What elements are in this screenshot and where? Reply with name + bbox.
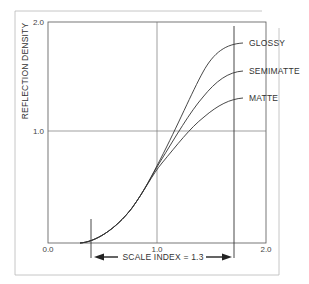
scale-index-annotation: SCALE INDEX = 1.3 [94, 252, 232, 262]
series-label-semimatte: SEMIMATTE [249, 66, 300, 76]
curve-glossy [80, 43, 243, 243]
plot-area [48, 22, 266, 243]
curves [80, 43, 243, 243]
series-label-matte: MATTE [249, 93, 278, 103]
scale-index-label: SCALE INDEX = 1.3 [122, 252, 203, 262]
y-tick-2: 2.0 [33, 18, 45, 27]
curve-matte [80, 98, 243, 243]
y-tick-1: 1.0 [33, 127, 45, 136]
x-tick-0: 0.0 [42, 245, 54, 254]
x-tick-2: 2.0 [260, 245, 272, 254]
right-arrow-icon [222, 254, 232, 261]
left-arrow-icon [94, 254, 104, 261]
y-axis-label: REFLECTION DENSITY [20, 23, 30, 120]
series-label-glossy: GLOSSY [249, 38, 285, 48]
outer-frame [15, 11, 279, 275]
reflection-density-chart: GLOSSY SEMIMATTE MATTE REFLECTION DENSIT… [0, 0, 309, 284]
